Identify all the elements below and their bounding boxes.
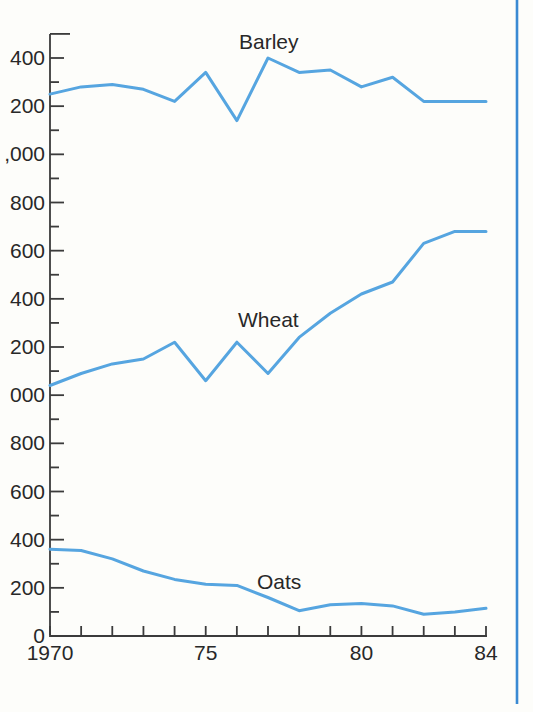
crop-line-chart: 0200400600800000200400600800,00020040019… bbox=[0, 0, 533, 712]
y-tick-label: 400 bbox=[10, 528, 45, 551]
y-tick-label: 800 bbox=[10, 431, 45, 454]
barley-series-label: Barley bbox=[239, 30, 299, 53]
y-tick-label: ,000 bbox=[4, 142, 45, 165]
y-tick-label: 400 bbox=[10, 46, 45, 69]
x-tick-label: 80 bbox=[350, 641, 373, 664]
y-tick-label: 200 bbox=[10, 335, 45, 358]
y-tick-label: 200 bbox=[10, 94, 45, 117]
y-tick-label: 600 bbox=[10, 480, 45, 503]
scanned-chart-page: 0200400600800000200400600800,00020040019… bbox=[0, 0, 533, 712]
y-tick-label: 800 bbox=[10, 191, 45, 214]
y-tick-label: 600 bbox=[10, 239, 45, 262]
chart-background bbox=[0, 0, 533, 712]
y-tick-label: 000 bbox=[10, 383, 45, 406]
y-tick-label: 200 bbox=[10, 576, 45, 599]
x-tick-label: 1970 bbox=[27, 641, 74, 664]
x-tick-label: 84 bbox=[474, 641, 498, 664]
wheat-series-label: Wheat bbox=[238, 308, 299, 331]
x-tick-label: 75 bbox=[194, 641, 217, 664]
y-tick-label: 400 bbox=[10, 287, 45, 310]
oats-series-label: Oats bbox=[257, 570, 301, 593]
